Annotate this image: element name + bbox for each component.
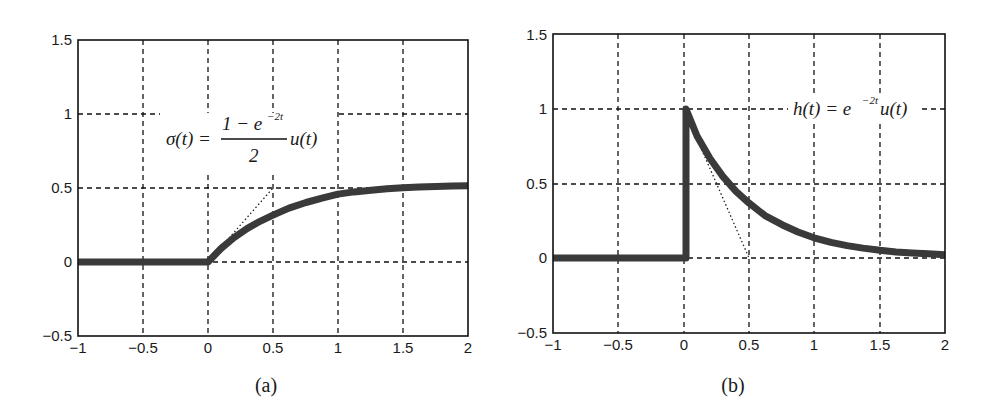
equation-suffix: u(t): [290, 128, 317, 150]
panel-b-equation: h(t) = e −2t u(t): [793, 94, 907, 120]
y-tick: 1.5: [51, 31, 72, 48]
x-tick: −1: [69, 339, 86, 356]
y-tick: 0: [539, 249, 547, 266]
x-tick: −0.5: [603, 336, 633, 353]
x-tick: 0.5: [263, 339, 284, 356]
y-tick: −0.5: [42, 327, 72, 344]
equation-lhs: h(t) = e: [793, 98, 851, 120]
y-tick: 1: [64, 105, 72, 122]
y-tick: 0.5: [51, 179, 72, 196]
panel-a-y-axis: 1.5 1 0.5 0 −0.5: [42, 31, 72, 344]
equation-exponent: −2t: [267, 110, 284, 122]
x-tick: 1: [334, 339, 342, 356]
x-tick: −1: [544, 336, 561, 353]
equation-exponent: −2t: [862, 94, 879, 106]
panel-b: 1.5 1 0.5 0 −0.5 −1 −0.5 0 0.5 1 1.5 2 h…: [517, 26, 949, 397]
panel-a-x-axis: −1 −0.5 0 0.5 1 1.5 2: [69, 339, 472, 356]
y-tick: 1.5: [526, 26, 547, 43]
x-tick: 0: [680, 336, 688, 353]
x-tick: 2: [941, 336, 949, 353]
y-tick: −0.5: [517, 324, 547, 341]
panel-a-caption: (a): [255, 374, 277, 397]
y-tick: 0.5: [526, 175, 547, 192]
x-tick: 1.5: [870, 336, 891, 353]
panel-b-caption: (b): [721, 374, 744, 397]
x-tick: 0: [204, 339, 212, 356]
x-tick: 2: [464, 339, 472, 356]
y-tick: 0: [64, 253, 72, 270]
x-tick: −0.5: [128, 339, 158, 356]
equation-numerator: 1 − e: [222, 113, 262, 134]
panel-a: 1.5 1 0.5 0 −0.5 −1 −0.5 0 0.5 1 1.5 2 σ…: [42, 31, 472, 397]
x-tick: 1.5: [393, 339, 414, 356]
equation-denominator: 2: [249, 145, 259, 166]
panel-b-x-axis: −1 −0.5 0 0.5 1 1.5 2: [544, 336, 949, 353]
panel-b-grid: [553, 34, 945, 333]
equation-suffix: u(t): [880, 98, 907, 120]
equation-lhs: σ(t) =: [166, 128, 211, 150]
y-tick: 1: [539, 100, 547, 117]
x-tick: 0.5: [739, 336, 760, 353]
panel-b-y-axis: 1.5 1 0.5 0 −0.5: [517, 26, 547, 341]
x-tick: 1: [810, 336, 818, 353]
figure: 1.5 1 0.5 0 −0.5 −1 −0.5 0 0.5 1 1.5 2 σ…: [0, 0, 985, 420]
